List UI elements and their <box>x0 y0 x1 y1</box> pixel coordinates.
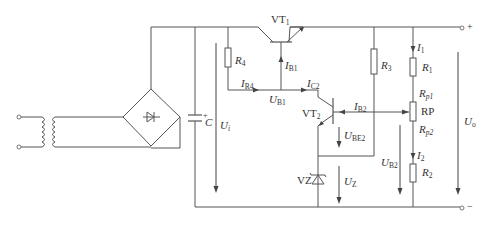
plus-terminal-label: + <box>467 22 473 32</box>
transformer-secondary-icon <box>53 117 56 147</box>
resistor-r4-icon <box>225 48 231 67</box>
ui-label: Ui <box>220 120 230 133</box>
output-terminal-plus <box>460 26 464 30</box>
uz-label: UZ <box>344 176 357 189</box>
ir4-arrow-icon <box>253 88 259 93</box>
ib1-arrow-icon <box>279 56 284 62</box>
ub2-label: UB2 <box>381 157 398 170</box>
i2-arrow-icon <box>411 153 416 159</box>
output-terminal-minus <box>460 206 464 210</box>
transformer-primary-icon <box>42 117 45 147</box>
resistor-r1-icon <box>410 58 416 76</box>
rp-wiper-arrow-icon <box>402 110 409 115</box>
circuit-schematic <box>0 0 486 226</box>
input-terminal-top <box>17 115 21 119</box>
potentiometer-rp-icon <box>410 102 416 121</box>
i2-label: I2 <box>417 150 424 163</box>
input-terminal-bottom <box>17 145 21 149</box>
ir4-label: IR4 <box>241 78 253 91</box>
minus-terminal-label: − <box>467 202 473 212</box>
ib2-arrow-icon <box>339 110 345 115</box>
ib2-label: IB2 <box>354 101 366 114</box>
resistor-r3-icon <box>371 49 377 74</box>
r4-label: R4 <box>235 55 245 68</box>
r1-label: R1 <box>422 62 432 75</box>
rp1-label: Rp1 <box>419 88 433 101</box>
uo-label: Uo <box>464 116 476 129</box>
i1-arrow-icon <box>411 46 416 52</box>
ib1-label: IB1 <box>285 60 297 73</box>
regulator-circuit-diagram: + C Ui R4 IR4 UB1 VT1 IB1 IC2 VT2 IB2 UB… <box>0 0 486 226</box>
ube2-arrow-icon <box>337 141 342 148</box>
vt2-label: VT2 <box>302 108 320 121</box>
uo-arrow-icon <box>456 188 461 195</box>
ube2-label: UBE2 <box>344 130 365 143</box>
uz-arrow-icon <box>337 197 342 204</box>
rp2-label: Rp2 <box>419 124 433 137</box>
ic2-label: IC2 <box>307 78 319 91</box>
rp-label: RP <box>421 106 434 117</box>
capacitor-label: C <box>205 117 212 128</box>
i1-label: I1 <box>417 42 424 55</box>
zener-label: VZ <box>297 175 312 186</box>
resistor-r2-icon <box>410 164 416 182</box>
ub1-label: UB1 <box>269 94 286 107</box>
ui-arrow-icon <box>214 186 219 193</box>
vt1-label: VT1 <box>271 14 289 27</box>
r2-label: R2 <box>422 167 432 180</box>
ub2-arrow-icon <box>398 188 403 195</box>
r3-label: R3 <box>381 60 391 73</box>
